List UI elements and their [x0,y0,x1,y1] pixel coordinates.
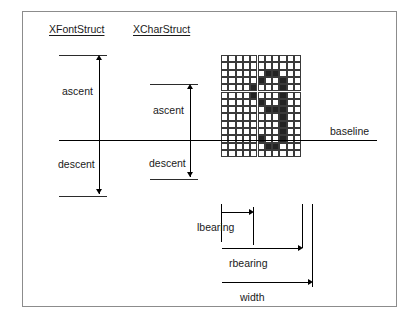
glyph-pixel-on [258,77,265,84]
glyph-pixel-off [272,150,279,157]
font-ascent-label: ascent [62,86,93,97]
glyph-pixel-off [250,99,257,106]
glyph-pixel-off [221,99,228,106]
glyph-pixel-off [258,106,265,113]
glyph-pixel-off [272,128,279,135]
glyph-pixel-off [258,55,265,62]
glyph-pixel-off [221,135,228,142]
font-descent-arrowhead-icon [96,189,102,194]
glyph-pixel-off [236,150,243,157]
char-ascent-measure-line [190,87,191,140]
glyph-pixel-on [250,84,257,91]
glyph-pixel-off [228,128,235,135]
glyph-pixel-grid [221,55,301,157]
glyph-pixel-off [294,92,301,99]
glyph-pixel-off [265,92,272,99]
glyph-pixel-off [228,106,235,113]
glyph-pixel-off [228,77,235,84]
glyph-pixel-off [258,84,265,91]
glyph-pixel-off [228,70,235,77]
glyph-pixel-off [258,113,265,120]
glyph-pixel-off [228,150,235,157]
glyph-pixel-on [279,128,286,135]
glyph-pixel-off [228,92,235,99]
rbearing-label: rbearing [229,258,268,269]
glyph-pixel-off [243,135,250,142]
heading-xfontstruct: XFontStruct [49,24,104,35]
glyph-pixel-off [243,99,250,106]
glyph-pixel-off [287,55,294,62]
glyph-pixel-off [265,128,272,135]
width-arrow-line [222,282,309,283]
glyph-pixel-on [258,135,265,142]
glyph-pixel-off [228,121,235,128]
glyph-pixel-off [243,92,250,99]
glyph-pixel-off [228,113,235,120]
font-descent-measure-line [99,141,100,194]
char-ascent-label: ascent [153,105,184,116]
glyph-pixel-on [279,77,286,84]
glyph-pixel-off [258,70,265,77]
glyph-pixel-off [294,84,301,91]
glyph-pixel-off [221,55,228,62]
lbearing-arrow-line [222,212,250,213]
baseline-rule [59,140,377,141]
glyph-pixel-off [228,135,235,142]
glyph-pixel-off [272,55,279,62]
char-descent-arrowhead-icon [187,172,193,177]
glyph-pixel-off [250,55,257,62]
glyph-pixel-off [294,106,301,113]
glyph-pixel-off [265,121,272,128]
glyph-pixel-off [294,55,301,62]
glyph-pixel-off [221,128,228,135]
glyph-pixel-off [236,121,243,128]
glyph-pixel-on [279,135,286,142]
glyph-pixel-off [279,143,286,150]
glyph-pixel-on [279,92,286,99]
glyph-pixel-on [279,106,286,113]
glyph-pixel-on [279,99,286,106]
glyph-pixel-off [294,135,301,142]
glyph-pixel-off [287,113,294,120]
lbearing-arrowhead-icon [249,209,254,215]
glyph-pixel-on [272,143,279,150]
glyph-pixel-off [221,143,228,150]
glyph-pixel-off [250,62,257,69]
char-descent-label: descent [149,158,186,169]
glyph-pixel-off [243,62,250,69]
glyph-pixel-off [236,106,243,113]
glyph-pixel-on [279,84,286,91]
width-arrowhead-icon [308,279,313,285]
width-end-guide [312,204,313,287]
glyph-pixel-off [243,106,250,113]
glyph-pixel-off [228,143,235,150]
lbearing-label: lbearing [197,222,234,233]
glyph-pixel-off [228,62,235,69]
glyph-pixel-off [243,84,250,91]
glyph-pixel-off [243,150,250,157]
glyph-pixel-off [272,135,279,142]
font-ascent-arrowhead-icon [96,55,102,60]
glyph-pixel-off [236,77,243,84]
glyph-pixel-off [265,150,272,157]
diagram-canvas: XFontStruct XCharStruct ascent descent a… [0,0,414,321]
glyph-pixel-off [258,128,265,135]
glyph-pixel-off [236,143,243,150]
glyph-pixel-off [279,70,286,77]
glyph-pixel-off [250,143,257,150]
rbearing-arrowhead-icon [298,245,303,251]
glyph-pixel-off [250,150,257,157]
glyph-pixel-off [258,92,265,99]
width-label: width [240,292,265,303]
glyph-pixel-off [243,128,250,135]
glyph-pixel-off [287,62,294,69]
glyph-pixel-off [221,106,228,113]
glyph-pixel-off [236,99,243,106]
rbearing-end-guide [302,204,303,248]
glyph-pixel-on [250,92,257,99]
glyph-pixel-off [236,62,243,69]
font-ascent-measure-line [99,58,100,140]
glyph-pixel-off [221,84,228,91]
glyph-pixel-on [272,70,279,77]
glyph-pixel-off [243,121,250,128]
